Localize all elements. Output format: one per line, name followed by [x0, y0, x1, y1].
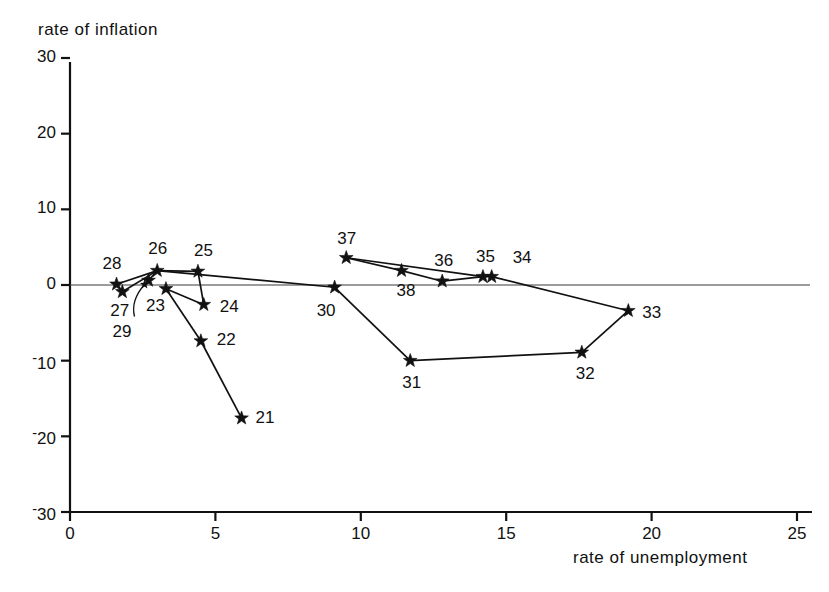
axes-group: [70, 62, 812, 512]
x-tick-label: 20: [632, 524, 672, 544]
point-label-31: 31: [402, 373, 421, 393]
point-label-33: 33: [642, 303, 661, 323]
data-point-marker-21: [235, 411, 249, 424]
data-point-marker-37: [339, 251, 353, 264]
point-label-36: 36: [434, 251, 453, 271]
connection-line-31-32: [410, 352, 582, 360]
x-tick-label: 5: [195, 524, 235, 544]
point-label-32: 32: [576, 364, 595, 384]
point-label-25: 25: [194, 241, 213, 261]
x-tick-label: 0: [50, 524, 90, 544]
point-label-29: 29: [113, 322, 132, 342]
point-label-21: 21: [256, 408, 275, 428]
x-tick-label: 25: [777, 524, 817, 544]
data-point-marker-22: [194, 334, 208, 347]
y-tick-label: 30: [10, 47, 56, 67]
connection-line-33-34: [492, 277, 629, 311]
connection-line-32-33: [582, 311, 629, 353]
point-label-26: 26: [148, 239, 167, 259]
callout-leader-line-29: [134, 285, 145, 317]
point-label-34: 34: [513, 248, 532, 268]
y-tick-label: 0: [10, 274, 56, 294]
point-label-38: 38: [397, 281, 416, 301]
point-label-23: 23: [146, 296, 165, 316]
point-label-22: 22: [217, 330, 236, 350]
x-tick-label: 10: [341, 524, 381, 544]
data-connection-lines: [117, 258, 629, 418]
point-label-28: 28: [103, 254, 122, 274]
point-label-30: 30: [317, 301, 336, 321]
connection-line-21-22: [201, 341, 242, 418]
y-tick-label: -10: [10, 350, 56, 374]
y-tick-label: -30: [10, 501, 56, 525]
point-label-27: 27: [110, 301, 129, 321]
y-tick-label: -20: [10, 425, 56, 449]
point-label-24: 24: [220, 297, 239, 317]
data-point-marker-23: [159, 282, 173, 295]
inflation-unemployment-scatter-figure: rate of inflation rate of unemployment 3…: [0, 0, 829, 592]
tick-marks-group: [61, 58, 797, 521]
point-label-37: 37: [337, 229, 356, 249]
data-point-marker-24: [197, 297, 211, 310]
y-tick-label: 10: [10, 198, 56, 218]
data-point-markers: [110, 251, 636, 424]
x-tick-label: 15: [486, 524, 526, 544]
point-label-35: 35: [476, 247, 495, 267]
y-tick-label: 20: [10, 123, 56, 143]
